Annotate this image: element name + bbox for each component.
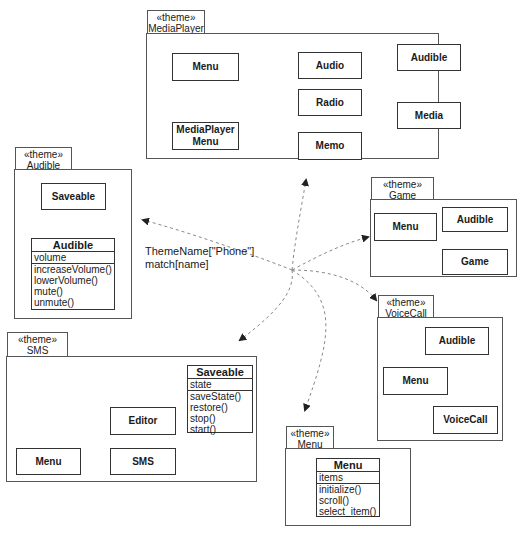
- attribute: state: [190, 379, 250, 390]
- class-attributes: items: [317, 472, 379, 484]
- stereotype-label: «theme»: [287, 428, 333, 439]
- class-operations: initialize() scroll() select_item(): [317, 484, 379, 517]
- class-media[interactable]: Media: [397, 102, 461, 129]
- class-audio[interactable]: Audio: [298, 52, 362, 79]
- class-sms[interactable]: SMS: [110, 448, 176, 475]
- class-name: Menu: [35, 456, 61, 468]
- stereotype-label: «theme»: [148, 12, 204, 23]
- class-menu[interactable]: Menu: [16, 448, 81, 475]
- theme-match-note: ThemeName["Phone"] match[name]: [145, 245, 254, 271]
- package-tab-sms: «theme» SMS: [7, 332, 68, 356]
- package-tab-menu: «theme» Menu: [286, 426, 334, 448]
- class-name: Audible: [32, 239, 114, 252]
- class-name: Radio: [316, 97, 344, 109]
- note-line-1: ThemeName["Phone"]: [145, 245, 254, 258]
- class-saveable-detailed[interactable]: Saveable state saveState() restore() sto…: [187, 365, 253, 433]
- class-name: Menu: [317, 459, 379, 472]
- class-name: Saveable: [52, 191, 95, 203]
- package-name: SMS: [8, 345, 67, 356]
- class-name: Menu: [192, 61, 218, 73]
- operation: unmute(): [32, 297, 114, 308]
- package-tab-audible: «theme» Audible: [15, 147, 72, 169]
- operation: lowerVolume(): [32, 275, 114, 286]
- note-line-2: match[name]: [145, 258, 254, 271]
- operation: start(): [188, 424, 252, 435]
- class-audible[interactable]: Audible: [442, 207, 508, 232]
- operation: scroll(): [317, 495, 379, 506]
- class-name: Media: [415, 110, 443, 122]
- stereotype-label: «theme»: [8, 334, 67, 345]
- class-menu[interactable]: Menu: [172, 53, 239, 81]
- class-name-line1: MediaPlayer: [176, 124, 234, 136]
- attribute: items: [319, 472, 377, 483]
- class-menu-detailed[interactable]: Menu items initialize() scroll() select_…: [316, 458, 380, 517]
- class-name: Game: [461, 256, 489, 268]
- class-name: Audible: [439, 335, 476, 347]
- package-tab-mediaplayer: «theme» MediaPlayer: [147, 10, 205, 33]
- class-attributes: state: [188, 379, 252, 391]
- operation: mute(): [32, 286, 114, 297]
- operation: initialize(): [317, 484, 379, 495]
- class-attributes: volume: [32, 252, 114, 264]
- class-name: Saveable: [188, 366, 252, 379]
- class-name-line2: Menu: [192, 136, 218, 148]
- class-operations: increaseVolume() lowerVolume() mute() un…: [32, 264, 114, 308]
- class-name: Memo: [316, 140, 345, 152]
- stereotype-label: «theme»: [372, 179, 433, 190]
- operation: restore(): [188, 402, 252, 413]
- operation: increaseVolume(): [32, 264, 114, 275]
- class-name: SMS: [132, 456, 154, 468]
- class-name: VoiceCall: [443, 414, 487, 426]
- operation: stop(): [188, 413, 252, 424]
- class-mediaplayer-menu[interactable]: MediaPlayer Menu: [172, 122, 239, 150]
- class-name: Audible: [411, 52, 448, 64]
- class-operations: saveState() restore() stop() start(): [188, 391, 252, 435]
- class-memo[interactable]: Memo: [298, 132, 362, 160]
- class-voicecall[interactable]: VoiceCall: [433, 406, 498, 434]
- class-menu[interactable]: Menu: [374, 213, 437, 241]
- package-tab-game: «theme» Game: [371, 177, 434, 199]
- class-name: Audio: [316, 60, 344, 72]
- class-audible-detailed[interactable]: Audible volume increaseVolume() lowerVol…: [31, 238, 115, 310]
- class-game[interactable]: Game: [442, 249, 508, 275]
- stereotype-label: «theme»: [16, 149, 71, 160]
- class-audible[interactable]: Audible: [425, 327, 489, 355]
- class-editor[interactable]: Editor: [110, 407, 176, 435]
- class-menu[interactable]: Menu: [383, 367, 448, 395]
- package-tab-voicecall: «theme» VoiceCall: [378, 295, 434, 317]
- class-name: Menu: [392, 221, 418, 233]
- class-audible[interactable]: Audible: [397, 44, 461, 71]
- class-name: Audible: [457, 214, 494, 226]
- class-name: Menu: [402, 375, 428, 387]
- stereotype-label: «theme»: [379, 297, 433, 308]
- class-radio[interactable]: Radio: [298, 89, 362, 116]
- operation: saveState(): [188, 391, 252, 402]
- class-saveable[interactable]: Saveable: [41, 183, 106, 210]
- operation: select_item(): [317, 506, 379, 517]
- attribute: volume: [34, 252, 112, 263]
- class-name: Editor: [129, 415, 158, 427]
